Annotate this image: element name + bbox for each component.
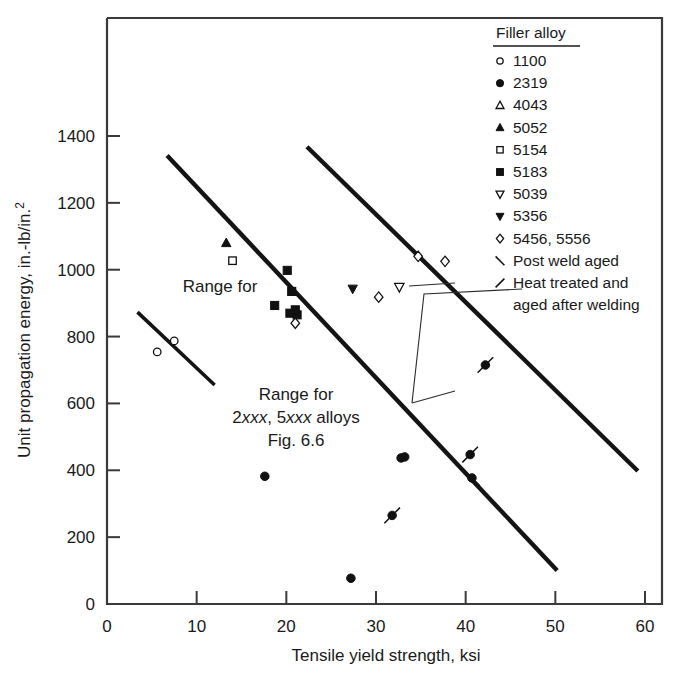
marker-filled-square	[271, 301, 279, 309]
x-tick-label: 60	[636, 617, 655, 636]
y-tick-label: 600	[67, 394, 95, 413]
marker-filled-circle	[347, 574, 356, 583]
legend-item-label: aged after welding	[513, 296, 640, 313]
y-tick-label: 1400	[57, 127, 95, 146]
x-tick-label: 30	[367, 617, 386, 636]
marker-filled-square	[288, 287, 296, 295]
x-tick-label: 40	[456, 617, 475, 636]
marker-filled-circle	[496, 80, 503, 87]
annotation-range-2xxx-line1: Range for	[259, 385, 334, 404]
legend-title: Filler alloy	[496, 24, 566, 41]
y-tick-label: 200	[67, 528, 95, 547]
legend-item-label: 5456, 5556	[513, 230, 591, 247]
marker-filled-square	[283, 266, 291, 274]
y-tick-label: 1000	[57, 261, 95, 280]
y-axis-title-main: Unit propagation energy, in.-lb/in.	[15, 209, 34, 458]
legend-item-label: 4043	[513, 96, 547, 113]
t-xxx-1: xxx	[241, 408, 268, 427]
annotation-range-2xxx-line2: 2xxx, 5xxx alloys	[232, 408, 360, 427]
x-tick-label: 20	[277, 617, 296, 636]
annotation-range-1100-line1: Range for	[183, 277, 258, 296]
legend-item-label: 2319	[513, 74, 547, 91]
y-axis-title: Unit propagation energy, in.-lb/in.2	[13, 202, 34, 458]
x-tick-label: 50	[546, 617, 565, 636]
t-comma5: , 5	[267, 408, 286, 427]
marker-open-circle	[153, 348, 160, 355]
marker-open-square	[229, 257, 236, 264]
legend-item[interactable]: Post weld aged	[496, 252, 619, 269]
t-alloys: alloys	[312, 408, 360, 427]
legend-item-label: 5039	[513, 185, 547, 202]
legend-item[interactable]: aged after welding	[513, 296, 640, 313]
scatter-chart-svg: 0200400600800100012001400 0102030405060 …	[0, 0, 675, 680]
x-tick-label: 0	[102, 617, 111, 636]
marker-filled-circle	[400, 453, 409, 462]
x-tick-label: 10	[187, 617, 206, 636]
legend-item-label: 5154	[513, 141, 548, 158]
svg-text:Unit propagation energy, in.-l: Unit propagation energy, in.-lb/in.2	[13, 202, 34, 458]
marker-open-circle	[171, 337, 178, 344]
legend-item-label: 5052	[513, 119, 547, 136]
y-tick-label: 800	[67, 328, 95, 347]
x-axis-title: Tensile yield strength, ksi	[292, 646, 481, 665]
t-2: 2	[232, 408, 241, 427]
legend-item-label: 1100	[513, 52, 547, 69]
legend-item-label: 5183	[513, 163, 547, 180]
marker-filled-square	[497, 169, 504, 176]
legend-item-label: Heat treated and	[513, 274, 628, 291]
y-axis-title-superscript: 2	[13, 202, 27, 209]
y-tick-label: 1200	[57, 194, 95, 213]
chart-figure: 0200400600800100012001400 0102030405060 …	[0, 0, 675, 680]
marker-filled-circle	[261, 472, 270, 481]
legend-item-label: 5356	[513, 207, 547, 224]
marker-filled-square	[293, 311, 301, 319]
annotation-range-2xxx-line3: Fig. 6.6	[268, 431, 325, 450]
y-tick-label: 0	[86, 595, 95, 614]
legend-item[interactable]: Heat treated and	[496, 274, 629, 291]
legend-item-label: Post weld aged	[513, 252, 619, 269]
t-xxx-2: xxx	[285, 408, 312, 427]
marker-open-circle	[497, 58, 503, 64]
y-tick-label: 400	[67, 461, 95, 480]
marker-open-square	[497, 147, 503, 153]
annotation-range-1100: Range for	[183, 277, 258, 296]
